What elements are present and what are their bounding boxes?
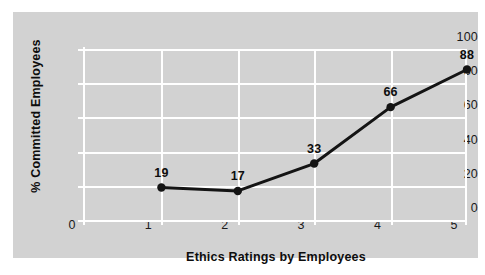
x-tick-mark-1 [161, 220, 163, 225]
data-point-marker [234, 187, 242, 195]
data-point-label: 66 [383, 85, 397, 99]
y-tick-label-100: 100 [444, 30, 478, 44]
x-tick-mark-3 [314, 220, 316, 225]
plot-area: 1917336688 [85, 49, 467, 220]
x-tick-mark-2 [238, 220, 240, 225]
y-tick-mark-20 [78, 186, 83, 188]
y-tick-mark-60 [78, 117, 83, 119]
data-point-label: 19 [154, 166, 168, 180]
line-path [161, 70, 467, 191]
data-point-marker [310, 159, 318, 167]
chart-figure: % Committed Employees 100 80 60 40 20 0 … [0, 0, 485, 275]
data-point-markers [157, 65, 471, 195]
x-tick-mark-4 [391, 220, 393, 225]
data-point-label: 88 [460, 48, 474, 62]
data-point-marker [463, 65, 471, 73]
y-tick-mark-40 [78, 152, 83, 154]
data-point-label: 33 [307, 142, 321, 156]
data-series-line [85, 49, 467, 220]
caption-strip [0, 264, 485, 275]
data-point-label: 17 [231, 169, 245, 183]
y-tick-mark-80 [78, 83, 83, 85]
y-axis-title: % Committed Employees [27, 12, 45, 220]
y-tick-mark-100 [78, 49, 83, 51]
x-axis-title: Ethics Ratings by Employees [85, 250, 467, 264]
chart-panel: % Committed Employees 100 80 60 40 20 0 … [13, 12, 478, 258]
x-tick-mark-5 [465, 220, 467, 225]
y-axis-title-text: % Committed Employees [29, 39, 43, 193]
data-point-marker [157, 183, 165, 191]
gridline-y-0 [85, 220, 467, 222]
x-tick-mark-0 [83, 220, 85, 225]
data-point-marker [386, 103, 394, 111]
